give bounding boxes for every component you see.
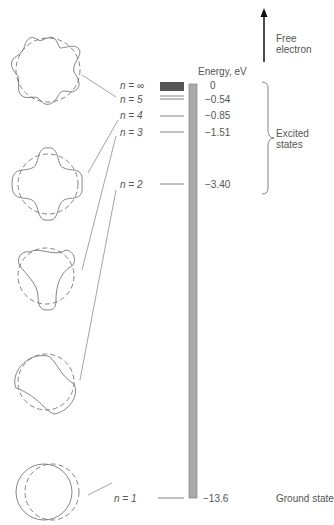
energy-value-n2: −3.40 bbox=[205, 179, 230, 190]
level-label-n5: n = 5 bbox=[120, 94, 143, 105]
energy-value-n-inf: 0 bbox=[210, 80, 216, 91]
orbit-figure-n3 bbox=[18, 248, 74, 310]
level-label-n2: n = 2 bbox=[120, 179, 143, 190]
excited-states-label: Excited states bbox=[276, 128, 309, 150]
orbit-figure-n2 bbox=[15, 354, 76, 414]
level-label-n4: n = 4 bbox=[120, 110, 143, 121]
excited-states-brace bbox=[262, 82, 274, 194]
connector-lines bbox=[80, 75, 118, 495]
orbit-figure-n1 bbox=[16, 464, 79, 520]
excited-states-line2: states bbox=[276, 139, 309, 150]
free-electron-label: Free electron bbox=[276, 33, 312, 55]
energy-value-n1: −13.6 bbox=[203, 493, 228, 504]
level-label-n1: n = 1 bbox=[114, 493, 137, 504]
energy-value-n4: −0.85 bbox=[205, 110, 230, 121]
energy-value-n3: −1.51 bbox=[205, 127, 230, 138]
orbit-figure-n5 bbox=[11, 37, 80, 104]
orbit-figure-n4 bbox=[12, 148, 82, 220]
energy-bar bbox=[189, 84, 197, 498]
energy-axis-label: Energy, eV bbox=[198, 66, 247, 77]
level-lines bbox=[158, 82, 184, 498]
free-electron-arrow bbox=[261, 8, 268, 62]
excited-states-line1: Excited bbox=[276, 128, 309, 139]
energy-value-n5: −0.54 bbox=[205, 94, 230, 105]
level-label-n-inf: n = ∞ bbox=[120, 80, 144, 91]
level-label-n3: n = 3 bbox=[120, 127, 143, 138]
free-electron-line1: Free bbox=[276, 33, 312, 44]
free-electron-line2: electron bbox=[276, 44, 312, 55]
ground-state-label: Ground state bbox=[276, 493, 334, 504]
